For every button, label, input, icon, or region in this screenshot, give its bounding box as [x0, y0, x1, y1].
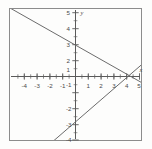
y-tick-label-1: 1: [67, 66, 71, 73]
y-tick-label-neg1: -1: [66, 81, 72, 88]
graph-figure: -4 -3 -2 -1 1 2 3 4 5 5 4 3 2 1 -1 -2 -3…: [0, 0, 152, 149]
x-axis-label: x: [139, 66, 143, 73]
x-tick-label-1: 1: [87, 82, 91, 89]
x-tick-label-3: 3: [112, 82, 116, 89]
y-tick-label-2: 2: [67, 57, 71, 64]
y-tick-label-neg3: -3: [66, 121, 72, 128]
y-tick-label-neg2: -2: [66, 105, 72, 112]
y-tick-label-5: 5: [67, 9, 71, 16]
x-tick-label-neg2: -2: [47, 82, 53, 89]
y-tick-label-4: 4: [67, 25, 71, 32]
x-tick-label-5: 5: [137, 82, 141, 89]
x-tick-label-neg3: -3: [34, 82, 40, 89]
x-tick-label-2: 2: [99, 82, 103, 89]
coordinate-plane-svg: -4 -3 -2 -1 1 2 3 4 5 5 4 3 2 1 -1 -2 -3…: [0, 0, 152, 149]
x-tick-label-4: 4: [125, 82, 129, 89]
y-tick-label-neg4: -4: [66, 136, 72, 143]
x-tick-label-neg4: -4: [22, 82, 28, 89]
y-tick-label-3: 3: [67, 41, 71, 48]
y-axis-label: y: [80, 9, 84, 16]
